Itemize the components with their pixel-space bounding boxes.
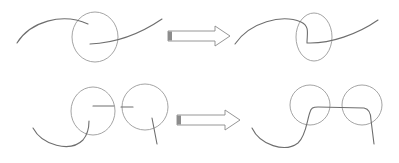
diagram-canvas xyxy=(0,0,399,163)
region-circle xyxy=(342,85,382,125)
curve-path xyxy=(90,19,162,44)
curve-path xyxy=(152,118,157,144)
after-panel xyxy=(235,13,378,61)
curve-path xyxy=(33,121,89,146)
region-circle xyxy=(296,13,332,61)
region-circle xyxy=(290,85,330,125)
row-two-circles xyxy=(33,84,382,147)
region-circle xyxy=(72,12,118,62)
transform-arrow-icon xyxy=(177,110,240,130)
row-single-circle xyxy=(17,12,378,62)
curve-path xyxy=(17,19,88,43)
region-circle xyxy=(71,87,115,135)
before-panel xyxy=(33,84,168,146)
curve-path xyxy=(252,107,374,147)
transform-arrow-icon xyxy=(168,26,230,46)
after-panel xyxy=(252,85,382,147)
before-panel xyxy=(17,12,162,62)
curve-path xyxy=(235,19,378,44)
